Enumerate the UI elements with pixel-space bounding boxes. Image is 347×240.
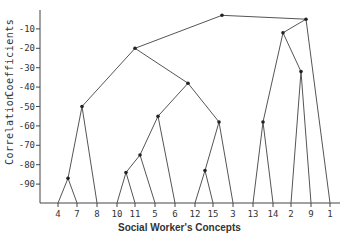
branch-line: [158, 83, 188, 116]
merge-node: [217, 120, 221, 124]
x-tick-label: 1: [327, 209, 332, 219]
y-tick-label: -20: [19, 43, 35, 53]
branch-line: [301, 72, 311, 203]
merge-node: [220, 14, 224, 18]
x-tick-label: 4: [55, 209, 60, 219]
branch-line: [68, 107, 82, 179]
x-tick-label: 5: [152, 209, 157, 219]
branch-line: [205, 122, 219, 171]
x-ticks: 478101156121531314291: [55, 203, 332, 219]
branch-line: [126, 172, 135, 203]
y-tick-label: -60: [19, 121, 35, 131]
branch-line: [306, 19, 330, 203]
x-tick-label: 10: [112, 209, 123, 219]
y-tick-label: -80: [19, 160, 35, 170]
x-tick-label: 6: [172, 209, 177, 219]
branch-line: [263, 122, 273, 203]
y-tick-label: -40: [19, 82, 35, 92]
merge-node: [186, 81, 190, 85]
y-tick-label: -30: [19, 63, 35, 73]
x-tick-label: 9: [308, 209, 313, 219]
x-tick-label: 12: [190, 209, 201, 219]
x-axis-title: Social Worker's Concepts: [118, 222, 241, 233]
branch-line: [82, 48, 135, 106]
branch-line: [140, 155, 155, 203]
y-tick-label: -50: [19, 102, 35, 112]
x-tick-label: 8: [94, 209, 99, 219]
merge-node: [261, 120, 265, 124]
merge-node: [281, 31, 285, 35]
y-axis-title-part2: Coefficients: [4, 19, 15, 97]
merge-node: [133, 47, 137, 51]
branch-line: [283, 33, 301, 72]
merge-node: [203, 169, 207, 173]
branch-line: [135, 15, 222, 48]
dendrogram-chart: -10-20-30-40-50-60-70-80-90 478101156121…: [0, 0, 347, 240]
x-tick-label: 2: [288, 209, 293, 219]
y-tick-label: -90: [19, 179, 35, 189]
branch-line: [283, 19, 306, 33]
x-tick-label: 7: [74, 209, 79, 219]
merge-node: [66, 176, 70, 180]
branch-line: [117, 172, 126, 203]
y-axis-title-part1: Correlation: [4, 93, 15, 165]
x-tick-label: 11: [130, 209, 141, 219]
merge-node: [138, 153, 142, 157]
x-tick-label: 13: [248, 209, 259, 219]
branch-line: [253, 122, 263, 203]
merge-node: [124, 171, 128, 175]
y-ticks: -10-20-30-40-50-60-70-80-90: [19, 24, 40, 189]
y-tick-label: -10: [19, 24, 35, 34]
branch-line: [140, 116, 158, 155]
branch-line: [188, 83, 219, 122]
branch-line: [205, 171, 213, 203]
branch-line: [158, 116, 175, 203]
x-tick-label: 15: [208, 209, 219, 219]
branch-line: [126, 155, 140, 172]
merge-node: [299, 70, 303, 74]
dendrogram-tree: [58, 14, 330, 203]
branch-line: [135, 48, 188, 83]
y-tick-label: -70: [19, 140, 35, 150]
branch-line: [222, 15, 306, 19]
merge-node: [80, 105, 84, 109]
branch-line: [82, 107, 97, 204]
branch-line: [291, 72, 301, 203]
merge-node: [304, 17, 308, 21]
branch-line: [195, 171, 205, 203]
branch-line: [263, 33, 283, 122]
merge-node: [156, 114, 160, 118]
branch-line: [219, 122, 233, 203]
x-tick-label: 14: [268, 209, 279, 219]
branch-line: [58, 178, 68, 203]
x-tick-label: 3: [230, 209, 235, 219]
branch-line: [68, 178, 77, 203]
